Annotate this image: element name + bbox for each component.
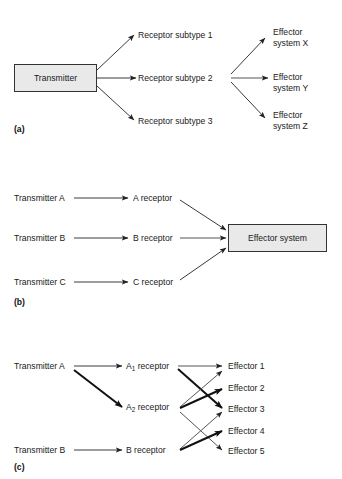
edge-c-B-to-effector4: [180, 431, 222, 450]
node-c-a1-suffix: receptor: [135, 361, 169, 371]
edge-transmitter-to-receptor1: [97, 35, 134, 70]
edge-Creceptor-to-effector-system: [180, 248, 226, 280]
node-c-a2-prefix: A: [126, 402, 132, 412]
node-b-b-receptor[interactable]: B receptor: [133, 233, 173, 244]
node-c-a1-prefix: A: [126, 361, 132, 371]
node-effector-system-z-line2[interactable]: system Z: [273, 121, 308, 132]
node-transmitter[interactable]: Transmitter: [14, 64, 97, 92]
node-receptor-subtype-1[interactable]: Receptor subtype 1: [138, 30, 213, 41]
edge-receptor2-to-effectorZ: [231, 82, 265, 118]
node-c-effector-5[interactable]: Effector 5: [228, 446, 265, 457]
node-b-transmitter-c[interactable]: Transmitter C: [14, 277, 66, 288]
node-c-a2-receptor[interactable]: A2 receptor: [126, 402, 169, 414]
node-c-effector-1[interactable]: Effector 1: [228, 361, 265, 372]
edge-Areceptor-to-effector-system: [180, 200, 226, 230]
node-b-transmitter-a[interactable]: Transmitter A: [14, 193, 65, 204]
edge-c-transmitterA-to-A2: [74, 370, 122, 407]
figure-root: Transmitter Receptor subtype 1 Receptor …: [0, 0, 342, 479]
node-effector-system-x-line1[interactable]: Effector: [273, 27, 302, 38]
panel-label-a: (a): [14, 124, 25, 134]
node-b-c-receptor[interactable]: C receptor: [133, 277, 173, 288]
node-c-effector-4[interactable]: Effector 4: [228, 426, 265, 437]
edge-transmitter-to-receptor3: [97, 86, 134, 120]
edge-c-A2-to-effector5: [180, 412, 222, 450]
node-effector-system-z-line1[interactable]: Effector: [273, 110, 302, 121]
node-effector-system-y-line1[interactable]: Effector: [273, 72, 302, 83]
node-receptor-subtype-3[interactable]: Receptor subtype 3: [138, 116, 213, 127]
edge-c-A1-to-effector3: [178, 369, 222, 408]
node-receptor-subtype-2[interactable]: Receptor subtype 2: [138, 73, 213, 84]
node-c-transmitter-b[interactable]: Transmitter B: [14, 445, 65, 456]
node-b-a-receptor[interactable]: A receptor: [133, 193, 172, 204]
edge-c-B-to-effector3: [180, 412, 222, 449]
node-effector-system-y-line2[interactable]: system Y: [273, 83, 308, 94]
node-c-effector-3[interactable]: Effector 3: [228, 404, 265, 415]
node-effector-system-x-line2[interactable]: system X: [273, 38, 308, 49]
edge-c-A2-to-effector1: [180, 371, 222, 407]
edge-receptor2-to-effectorX: [231, 38, 265, 74]
edge-c-A2-to-effector2: [180, 389, 222, 408]
node-c-effector-2[interactable]: Effector 2: [228, 383, 265, 394]
node-c-a1-subscript: 1: [132, 365, 136, 372]
node-c-transmitter-a[interactable]: Transmitter A: [14, 361, 65, 372]
panel-label-b: (b): [14, 297, 25, 307]
panel-label-c: (c): [14, 462, 25, 472]
node-c-a2-suffix: receptor: [135, 402, 169, 412]
node-b-effector-system[interactable]: Effector system: [228, 224, 327, 252]
node-c-a2-subscript: 2: [132, 406, 136, 413]
node-c-b-receptor[interactable]: B receptor: [126, 445, 166, 456]
node-c-a1-receptor[interactable]: A1 receptor: [126, 361, 169, 373]
node-b-transmitter-b[interactable]: Transmitter B: [14, 233, 65, 244]
